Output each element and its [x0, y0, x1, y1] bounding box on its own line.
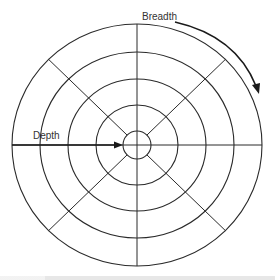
- breadth-label: Breadth: [142, 11, 177, 22]
- depth-arrowhead-icon: [114, 142, 123, 149]
- depth-label: Depth: [33, 130, 60, 141]
- depth-breadth-diagram: Breadth Depth: [0, 0, 275, 280]
- breadth-arrow-shaft: [175, 22, 256, 86]
- breadth-arrowhead-icon: [252, 83, 260, 94]
- spoke-upper-left: [49, 59, 128, 135]
- spoke-upper-right: [147, 59, 226, 135]
- spoke-lower-right: [147, 155, 226, 231]
- cropped-caption-strip: [0, 276, 275, 280]
- spoke-lower-left: [49, 155, 128, 231]
- breadth-arrow: [175, 22, 260, 94]
